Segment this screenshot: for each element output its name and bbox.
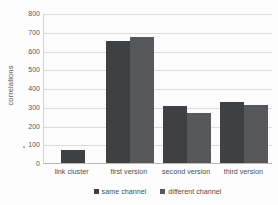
bar-group bbox=[215, 14, 272, 163]
y-axis-tick-800: 800 bbox=[28, 10, 40, 18]
bar-group bbox=[44, 14, 101, 163]
bar bbox=[106, 41, 130, 163]
legend-item-label: different channel bbox=[168, 187, 221, 196]
y-axis-tick-labels: 8007006005004003002001000 bbox=[20, 14, 40, 164]
y-axis-tick-500: 500 bbox=[28, 66, 40, 74]
x-axis-tick-label: first version bbox=[100, 166, 157, 178]
scan-speck bbox=[23, 146, 25, 148]
bars-layer bbox=[44, 14, 272, 163]
bar bbox=[187, 113, 211, 163]
y-axis-title-label: correlations bbox=[7, 65, 16, 105]
bar bbox=[220, 102, 244, 163]
bar-group bbox=[158, 14, 215, 163]
y-axis-tick-700: 700 bbox=[28, 29, 40, 37]
bar bbox=[61, 150, 85, 163]
legend-item-label: same channel bbox=[102, 187, 147, 196]
bar bbox=[130, 37, 154, 163]
legend-item[interactable]: same channel bbox=[94, 187, 147, 196]
x-axis-tick-label: link cluster bbox=[43, 166, 100, 178]
x-axis-tick-label: third version bbox=[215, 166, 272, 178]
y-axis-title: correlations bbox=[2, 0, 20, 170]
y-axis-tick-400: 400 bbox=[28, 85, 40, 93]
y-axis-tick-100: 100 bbox=[28, 141, 40, 149]
bar-group bbox=[101, 14, 158, 163]
x-axis-tick-labels: link clusterfirst versionsecond versiont… bbox=[43, 166, 272, 178]
legend-item[interactable]: different channel bbox=[160, 187, 221, 196]
legend-swatch-icon bbox=[160, 189, 165, 194]
y-axis-tick-600: 600 bbox=[28, 48, 40, 56]
y-axis-tick-0: 0 bbox=[36, 160, 40, 168]
bar-chart: correlations 8007006005004003002001000 l… bbox=[0, 0, 278, 205]
bar bbox=[244, 105, 268, 163]
legend-swatch-icon bbox=[94, 189, 99, 194]
bar bbox=[163, 106, 187, 163]
y-axis-tick-300: 300 bbox=[28, 104, 40, 112]
y-axis-tick-200: 200 bbox=[28, 123, 40, 131]
plot-area bbox=[43, 14, 272, 164]
chart-legend: same channeldifferent channel bbox=[43, 185, 272, 197]
x-axis-tick-label: second version bbox=[158, 166, 215, 178]
